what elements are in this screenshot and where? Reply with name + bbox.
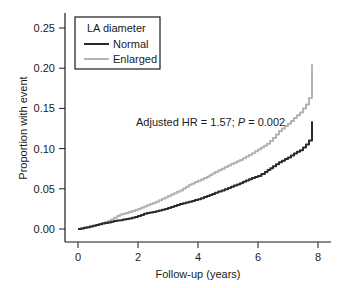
x-axis-label: Follow-up (years) [156,268,241,280]
y-tick-label: 0.15 [34,102,55,114]
legend: LA diameter Normal Enlarged [75,17,160,69]
y-tick-label: 0.05 [34,183,55,195]
y-ticks: 0.000.050.100.150.200.25 [34,22,65,235]
y-axis-label: Proportion with event [17,76,29,179]
series-line-enlarged [78,64,312,229]
legend-label-enlarged: Enlarged [113,53,157,65]
legend-label-normal: Normal [113,38,148,50]
chart: 0.000.050.100.150.200.25 02468 Proportio… [0,0,342,288]
x-ticks: 02468 [75,242,321,263]
x-tick-label: 8 [315,251,321,263]
x-tick-label: 6 [255,251,261,263]
legend-title: LA diameter [87,22,146,34]
hr-annotation-prefix: Adjusted HR = 1.57; [136,116,238,128]
y-tick-label: 0.25 [34,22,55,34]
y-tick-label: 0.20 [34,62,55,74]
series-layer [78,64,312,229]
hr-annotation: Adjusted HR = 1.57; P = 0.002 [136,116,285,128]
hr-annotation-suffix: = 0.002 [245,116,285,128]
y-tick-label: 0.10 [34,143,55,155]
y-tick-label: 0.00 [34,223,55,235]
x-tick-label: 0 [75,251,81,263]
x-tick-label: 4 [195,251,201,263]
x-tick-label: 2 [135,251,141,263]
